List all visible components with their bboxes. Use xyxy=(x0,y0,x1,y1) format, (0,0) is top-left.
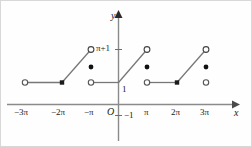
segment-ramp-right xyxy=(177,50,206,83)
graph-canvas xyxy=(1,1,252,147)
open-point-pi-top xyxy=(144,47,150,53)
open-point-negpi-top xyxy=(88,47,94,53)
segment-ramp-left xyxy=(62,50,91,83)
segment-ramp-center xyxy=(119,50,148,83)
origin-label: O xyxy=(107,107,114,117)
x-tick-label-pi: π xyxy=(144,108,149,117)
open-point-neg3pi xyxy=(22,80,27,85)
y-axis-label: y xyxy=(111,11,115,21)
x-axis-label: x xyxy=(234,108,238,118)
filled-point-neg2pi xyxy=(60,80,64,84)
open-point-negpi-base xyxy=(88,80,93,85)
x-tick-label-neg3pi: −3π xyxy=(14,108,28,117)
function-graph-figure: y x O −3π −2π −π π 2π 3π 1 −1 π+1 xyxy=(0,0,252,147)
y-value-label-pi-plus-1: π+1 xyxy=(96,44,110,53)
x-tick-label-3pi: 3π xyxy=(200,108,209,117)
x-tick-label-2pi: 2π xyxy=(171,108,180,117)
x-tick-label-neg2pi: −2π xyxy=(51,108,65,117)
filled-point-2pi xyxy=(175,80,179,84)
open-point-3pi-base xyxy=(203,80,208,85)
filled-dot-3pi xyxy=(204,65,209,70)
filled-dot-negpi xyxy=(89,65,94,70)
open-point-pi-base xyxy=(144,80,149,85)
filled-dot-pi xyxy=(145,65,150,70)
x-tick-label-negpi: −π xyxy=(84,108,94,117)
open-point-3pi-top xyxy=(203,47,209,53)
y-value-label-minus1: −1 xyxy=(124,111,134,120)
y-value-label-1: 1 xyxy=(122,85,127,94)
